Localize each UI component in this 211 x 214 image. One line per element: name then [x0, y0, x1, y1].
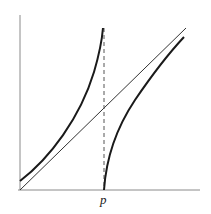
- x-tick-label-p: p: [99, 192, 107, 207]
- figure-canvas: p: [0, 0, 211, 214]
- diagonal-line: [20, 28, 186, 190]
- left-branch-curve: [20, 28, 103, 181]
- right-branch-curve: [104, 37, 184, 190]
